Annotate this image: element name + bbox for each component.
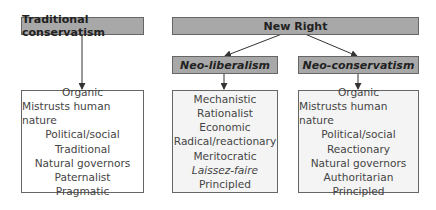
trait: Natural governors	[311, 156, 407, 170]
trait: Economic	[199, 120, 250, 134]
neo-liberalism-header: Neo-liberalism	[172, 56, 278, 74]
trait: Principled	[199, 177, 251, 191]
new-right-title: New Right	[264, 20, 328, 33]
trait: Mechanistic	[194, 92, 257, 106]
traditional-conservatism-header: Traditional conservatism	[21, 17, 144, 35]
neo-conservatism-traits: Organic Mistrusts human nature Political…	[298, 90, 419, 193]
trait: Reactionary	[327, 142, 390, 156]
trait: Rationalist	[197, 106, 253, 120]
trait: Pragmatic	[56, 184, 110, 198]
trait: Meritocratic	[193, 149, 256, 163]
trait: Organic	[62, 85, 103, 99]
trait: Paternalist	[54, 170, 110, 184]
trait: Mistrusts human nature	[22, 99, 143, 127]
trait: Radical/reactionary	[174, 134, 276, 148]
trait: Laissez-faire	[192, 163, 258, 177]
arrow-newright-to-neoliberalism	[225, 34, 282, 56]
arrow-newright-to-neoconservatism	[305, 34, 357, 56]
trait: Political/social	[45, 127, 120, 141]
trait: Organic	[338, 85, 379, 99]
neo-conservatism-title: Neo-conservatism	[303, 59, 415, 72]
trait: Mistrusts human nature	[299, 99, 418, 127]
trait: Traditional	[55, 142, 110, 156]
traditional-conservatism-title: Traditional conservatism	[22, 13, 143, 39]
neo-liberalism-title: Neo-liberalism	[180, 59, 270, 72]
traditional-conservatism-traits: Organic Mistrusts human nature Political…	[21, 90, 144, 193]
trait: Principled	[333, 184, 385, 198]
trait: Authoritarian	[324, 170, 394, 184]
trait: Natural governors	[35, 156, 131, 170]
neo-conservatism-header: Neo-conservatism	[298, 56, 419, 74]
neo-liberalism-traits: Mechanistic Rationalist Economic Radical…	[172, 90, 278, 193]
new-right-header: New Right	[172, 17, 419, 35]
trait: Political/social	[321, 127, 396, 141]
